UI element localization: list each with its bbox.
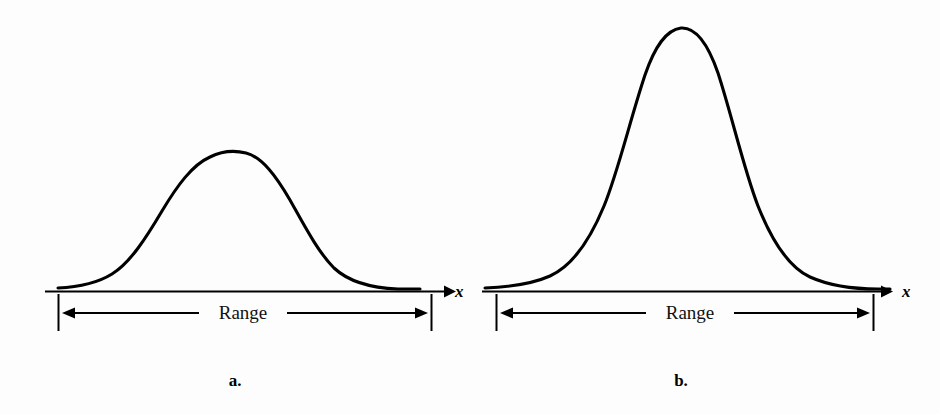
range-label-a: Range xyxy=(199,303,287,322)
panel-a: x Range a. xyxy=(0,0,470,414)
panel-caption-b: b. xyxy=(651,372,711,389)
x-axis-label-a: x xyxy=(455,283,464,300)
panel-a-graphic xyxy=(0,0,470,414)
range-arrowhead-left-b xyxy=(500,308,513,319)
x-axis-label-b: x xyxy=(902,283,911,300)
figure-root: x Range a. x Range b. xyxy=(0,0,940,414)
distribution-curve-b xyxy=(485,28,890,289)
range-arrowhead-right-b xyxy=(857,308,870,319)
panel-caption-a: a. xyxy=(205,372,265,389)
range-label-b: Range xyxy=(646,303,734,322)
panel-b: x Range b. xyxy=(470,0,940,414)
range-arrowhead-left-a xyxy=(62,308,75,319)
panel-b-graphic xyxy=(470,0,940,414)
range-arrowhead-right-a xyxy=(415,308,428,319)
distribution-curve-a xyxy=(58,151,420,289)
x-axis-arrowhead-b xyxy=(881,286,893,298)
